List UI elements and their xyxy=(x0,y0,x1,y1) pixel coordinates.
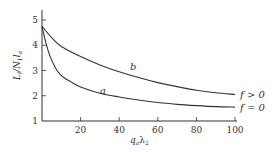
axes xyxy=(42,10,237,121)
x-tick-label: 100 xyxy=(226,125,243,135)
curve-b xyxy=(42,26,235,94)
x-tick-label: 60 xyxy=(152,125,164,135)
curves xyxy=(42,26,235,107)
y-axis-label: Ll/N1la xyxy=(12,50,23,81)
y-tick-label: 4 xyxy=(32,40,38,50)
y-tick-label: 2 xyxy=(32,91,38,101)
x-tick-label: 80 xyxy=(191,125,203,135)
curve-label-b: b xyxy=(130,61,136,72)
end-label-a: f = 0 xyxy=(239,102,265,113)
x-tick-label: 20 xyxy=(75,125,87,135)
y-ticks: 12345 xyxy=(32,15,46,126)
y-tick-label: 5 xyxy=(32,15,38,25)
line-chart: 12345 20406080100 b a f > 0 f = 0 qaλ2 L… xyxy=(0,0,277,153)
curve-label-a: a xyxy=(100,85,106,96)
x-axis-label: qaλ2 xyxy=(130,135,149,146)
end-label-b: f > 0 xyxy=(239,89,265,100)
y-tick-label: 1 xyxy=(32,116,38,126)
x-tick-label: 40 xyxy=(113,125,125,135)
x-ticks: 20406080100 xyxy=(75,117,244,135)
y-tick-label: 3 xyxy=(32,66,38,76)
curve-a xyxy=(42,26,235,107)
